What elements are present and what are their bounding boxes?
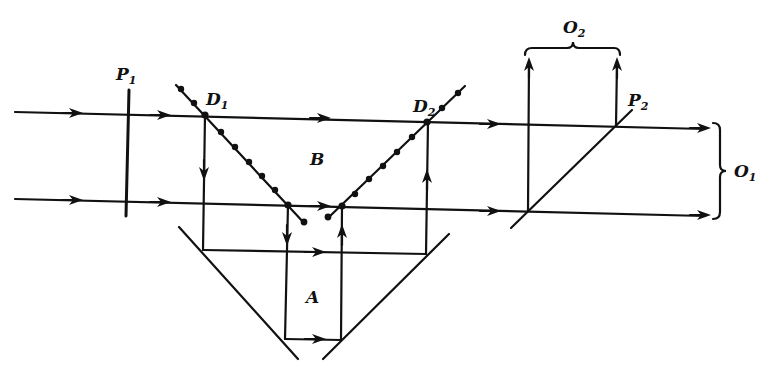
brace-o1 [713, 123, 726, 219]
lower-beam [15, 199, 705, 216]
label-b: B [309, 149, 324, 169]
label-d1: D1 [205, 89, 228, 112]
beam-splitter-d2 [325, 86, 465, 220]
label-o1: O1 [734, 161, 756, 184]
mirror-left [179, 227, 298, 359]
label-a: A [304, 287, 319, 307]
label-o2: O2 [563, 17, 586, 40]
label-p1: P1 [115, 64, 136, 87]
interferometer-diagram: P1 D1 D2 B A P2 O2 O1 [0, 0, 762, 376]
output-section [511, 62, 632, 228]
label-d2: D2 [412, 96, 436, 119]
brace-o2 [525, 42, 620, 55]
label-p2: P2 [627, 90, 649, 113]
plate-p1 [126, 90, 129, 216]
upper-beam [15, 112, 705, 129]
